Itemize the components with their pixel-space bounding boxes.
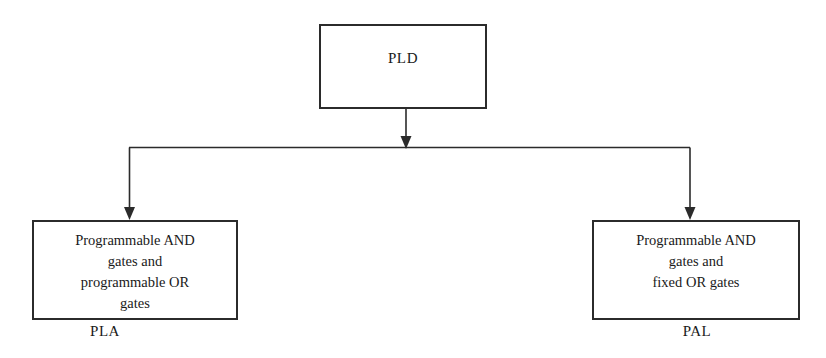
node-pal-line-3: fixed OR gates: [594, 272, 798, 293]
node-pla-line-4: gates: [34, 293, 236, 314]
node-pld[interactable]: PLD: [319, 24, 487, 109]
node-pla-line-1: Programmable AND: [34, 230, 236, 251]
node-pla[interactable]: Programmable AND gates and programmable …: [32, 220, 238, 320]
caption-pal: PAL: [647, 323, 747, 340]
node-pla-line-2: gates and: [34, 251, 236, 272]
caption-pla: PLA: [55, 323, 155, 340]
diagram-canvas: PLD Programmable AND gates and programma…: [0, 0, 826, 358]
node-pal-line-2: gates and: [594, 251, 798, 272]
arrowhead-root-down: [401, 136, 412, 149]
node-pld-label: PLD: [321, 50, 485, 67]
arrowhead-left-down: [124, 207, 135, 220]
node-pla-line-3: programmable OR: [34, 272, 236, 293]
node-pal-line-1: Programmable AND: [594, 230, 798, 251]
arrowhead-right-down: [685, 207, 696, 220]
node-pal[interactable]: Programmable AND gates and fixed OR gate…: [592, 220, 800, 320]
